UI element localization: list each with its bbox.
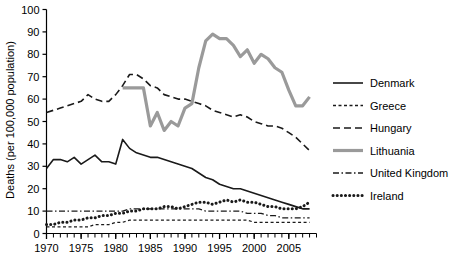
y-tick-label: 30 (27, 160, 39, 172)
y-tick-label: 10 (27, 205, 39, 217)
series-line-ireland (47, 200, 310, 225)
x-tick-label: 1975 (69, 242, 93, 254)
y-axis-ticks: 0102030405060708090100 (21, 4, 46, 240)
legend-label: United Kingdom (370, 167, 448, 179)
chart-container: Deaths (per 100,000 population) 01020304… (0, 0, 459, 268)
x-tick-label: 1995 (207, 242, 231, 254)
series-line-lithuania (123, 34, 310, 130)
chart-legend: DenmarkGreeceHungaryLithuaniaUnited King… (333, 77, 448, 202)
legend-item-hungary: Hungary (333, 122, 412, 134)
x-tick-label: 2005 (277, 242, 301, 254)
y-tick-label: 20 (27, 183, 39, 195)
y-axis-title-group: Deaths (per 100,000 population) (4, 41, 16, 199)
y-axis-title: Deaths (per 100,000 population) (4, 41, 16, 199)
y-tick-label: 80 (27, 48, 39, 60)
legend-label: Denmark (370, 77, 415, 89)
legend-item-lithuania: Lithuania (333, 145, 416, 157)
y-tick-label: 100 (21, 4, 39, 16)
series-line-greece (47, 220, 310, 227)
legend-item-ireland: Ireland (333, 190, 404, 202)
legend-label: Greece (370, 100, 406, 112)
legend-item-united-kingdom: United Kingdom (333, 167, 448, 179)
y-tick-label: 0 (33, 228, 39, 240)
y-tick-label: 40 (27, 138, 39, 150)
y-tick-label: 70 (27, 71, 39, 83)
series-line-hungary (47, 74, 310, 150)
series-line-united-kingdom (47, 209, 310, 218)
legend-label: Lithuania (370, 145, 416, 157)
legend-label: Ireland (370, 190, 404, 202)
x-axis-ticks: 19701975198019851990199520002005 (34, 234, 316, 254)
data-series-group (47, 34, 310, 227)
y-tick-label: 50 (27, 116, 39, 128)
legend-item-greece: Greece (333, 100, 406, 112)
series-line-denmark (47, 139, 310, 208)
x-tick-label: 1980 (103, 242, 127, 254)
x-tick-label: 1970 (34, 242, 58, 254)
y-tick-label: 60 (27, 93, 39, 105)
x-tick-label: 1985 (138, 242, 162, 254)
x-tick-label: 1990 (173, 242, 197, 254)
x-tick-label: 2000 (242, 242, 266, 254)
y-tick-label: 90 (27, 26, 39, 38)
line-chart: Deaths (per 100,000 population) 01020304… (0, 0, 459, 268)
legend-label: Hungary (370, 122, 412, 134)
legend-item-denmark: Denmark (333, 77, 415, 89)
